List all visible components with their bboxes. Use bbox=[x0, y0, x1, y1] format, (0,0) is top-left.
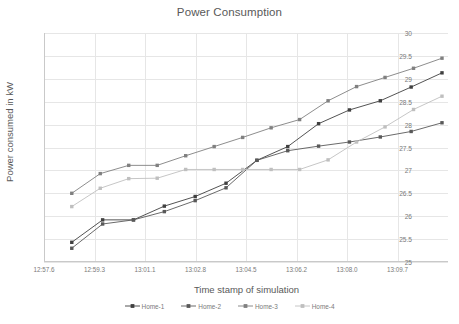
x-tick-label: 13:09.7 bbox=[387, 266, 408, 273]
data-point-marker bbox=[184, 154, 187, 157]
data-point-marker bbox=[184, 168, 187, 171]
chart-container: Power Consumption Power consumed in kW 3… bbox=[0, 0, 459, 324]
data-point-marker bbox=[70, 247, 73, 250]
data-point-marker bbox=[241, 136, 244, 139]
data-point-marker bbox=[193, 195, 196, 198]
data-point-marker bbox=[163, 204, 166, 207]
data-point-marker bbox=[255, 159, 258, 162]
data-point-marker bbox=[156, 164, 159, 167]
legend-item-home-3[interactable]: Home-3 bbox=[238, 303, 278, 310]
legend-item-home-1[interactable]: Home-1 bbox=[125, 303, 165, 310]
data-point-marker bbox=[212, 145, 215, 148]
data-point-marker bbox=[440, 56, 443, 59]
data-point-marker bbox=[355, 85, 358, 88]
data-point-marker bbox=[440, 121, 443, 124]
chart-legend: Home-1Home-2Home-3Home-4 bbox=[0, 303, 459, 310]
data-point-marker bbox=[70, 192, 73, 195]
x-tick-label: 13:01.1 bbox=[134, 266, 155, 273]
x-tick-label: 13:06.2 bbox=[286, 266, 307, 273]
data-point-marker bbox=[379, 135, 382, 138]
legend-label: Home-4 bbox=[312, 303, 335, 310]
data-point-marker bbox=[379, 99, 382, 102]
data-point-marker bbox=[348, 140, 351, 143]
series-line bbox=[72, 123, 442, 248]
data-point-marker bbox=[101, 218, 104, 221]
data-point-marker bbox=[241, 168, 244, 171]
legend-item-home-4[interactable]: Home-4 bbox=[295, 303, 335, 310]
series-home-4 bbox=[70, 95, 444, 209]
data-point-marker bbox=[409, 130, 412, 133]
data-point-marker bbox=[317, 122, 320, 125]
x-tick-label: 13:08.0 bbox=[336, 266, 357, 273]
data-point-marker bbox=[224, 182, 227, 185]
x-tick-label: 13:04.5 bbox=[235, 266, 256, 273]
x-axis-title: Time stamp of simulation bbox=[40, 284, 453, 295]
data-point-marker bbox=[298, 168, 301, 171]
data-point-marker bbox=[99, 187, 102, 190]
data-point-marker bbox=[383, 76, 386, 79]
series-lines bbox=[44, 33, 448, 262]
data-point-marker bbox=[326, 158, 329, 161]
legend-label: Home-3 bbox=[255, 303, 278, 310]
legend-item-home-2[interactable]: Home-2 bbox=[181, 303, 221, 310]
legend-marker-icon bbox=[238, 303, 253, 310]
data-point-marker bbox=[224, 186, 227, 189]
data-point-marker bbox=[440, 71, 443, 74]
legend-label: Home-1 bbox=[142, 303, 165, 310]
data-point-marker bbox=[355, 140, 358, 143]
data-point-marker bbox=[286, 149, 289, 152]
data-point-marker bbox=[70, 205, 73, 208]
legend-label: Home-2 bbox=[198, 303, 221, 310]
y-axis-title: Power consumed in kW bbox=[4, 52, 15, 212]
data-point-marker bbox=[412, 67, 415, 70]
data-point-marker bbox=[269, 168, 272, 171]
data-point-marker bbox=[127, 177, 130, 180]
data-point-marker bbox=[440, 95, 443, 98]
data-point-marker bbox=[383, 125, 386, 128]
data-point-marker bbox=[212, 168, 215, 171]
data-point-marker bbox=[298, 118, 301, 121]
gridline-horizontal bbox=[44, 262, 448, 263]
data-point-marker bbox=[269, 126, 272, 129]
data-point-marker bbox=[156, 176, 159, 179]
data-point-marker bbox=[286, 145, 289, 148]
data-point-marker bbox=[132, 218, 135, 221]
data-point-marker bbox=[348, 108, 351, 111]
data-point-marker bbox=[101, 222, 104, 225]
series-line bbox=[72, 96, 442, 206]
x-tick-label: 13:02.8 bbox=[185, 266, 206, 273]
legend-marker-icon bbox=[125, 303, 140, 310]
legend-marker-icon bbox=[295, 303, 310, 310]
data-point-marker bbox=[127, 164, 130, 167]
data-point-marker bbox=[99, 172, 102, 175]
x-tick-label: 12:57.6 bbox=[33, 266, 54, 273]
data-point-marker bbox=[163, 210, 166, 213]
data-point-marker bbox=[326, 99, 329, 102]
legend-marker-icon bbox=[181, 303, 196, 310]
data-point-marker bbox=[317, 144, 320, 147]
data-point-marker bbox=[193, 199, 196, 202]
data-point-marker bbox=[70, 241, 73, 244]
series-line bbox=[72, 73, 442, 242]
series-home-1 bbox=[70, 71, 444, 244]
data-point-marker bbox=[412, 108, 415, 111]
series-home-2 bbox=[70, 121, 444, 250]
chart-title: Power Consumption bbox=[0, 6, 459, 18]
x-tick-label: 12:59.3 bbox=[84, 266, 105, 273]
data-point-marker bbox=[409, 85, 412, 88]
